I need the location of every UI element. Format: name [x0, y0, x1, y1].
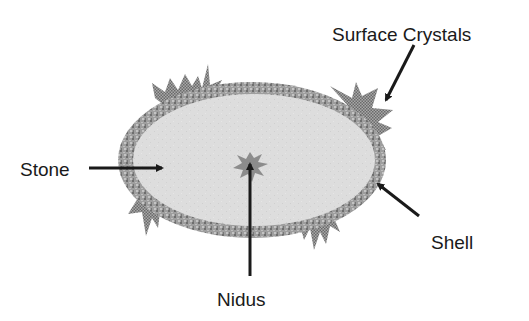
diagram-canvas — [0, 0, 529, 321]
stone-diagram: Surface Crystals Stone Nidus Shell — [0, 0, 529, 321]
surface-crystals-arrow — [386, 45, 414, 100]
surface-crystals-label: Surface Crystals — [332, 25, 471, 44]
stone-label: Stone — [20, 160, 70, 179]
shell-arrow — [378, 184, 419, 216]
nidus-label: Nidus — [217, 290, 266, 309]
shell-label: Shell — [431, 233, 473, 252]
